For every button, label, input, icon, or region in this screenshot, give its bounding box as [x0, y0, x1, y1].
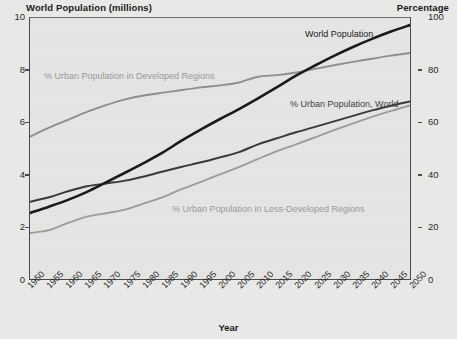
x-tick-label-1990: 1990	[179, 270, 200, 291]
series-label-urban-world: % Urban Population, World	[290, 100, 398, 109]
x-axis-title: Year	[0, 322, 457, 333]
x-axis-ticks: 1950195519601965197019751980198519901995…	[0, 0, 457, 339]
x-tick-label-2010: 2010	[255, 270, 276, 291]
series-label-urban-developed: % Urban Population in Developed Regions	[44, 72, 215, 81]
x-tick-label-2030: 2030	[332, 270, 353, 291]
x-tick-label-2000: 2000	[217, 270, 238, 291]
x-tick-label-2020: 2020	[293, 270, 314, 291]
x-tick-label-1975: 1975	[122, 270, 143, 291]
x-tick-label-1955: 1955	[45, 270, 66, 291]
x-tick-label-1985: 1985	[160, 270, 181, 291]
x-tick-label-1970: 1970	[102, 270, 123, 291]
x-tick-label-2035: 2035	[351, 270, 372, 291]
x-tick-label-2045: 2045	[389, 270, 410, 291]
x-tick-label-2040: 2040	[370, 270, 391, 291]
x-tick-label-1950: 1950	[26, 270, 47, 291]
x-tick-label-2005: 2005	[236, 270, 257, 291]
x-tick-label-2015: 2015	[274, 270, 295, 291]
x-tick-label-1965: 1965	[83, 270, 104, 291]
x-tick-label-1995: 1995	[198, 270, 219, 291]
x-tick-label-1960: 1960	[64, 270, 85, 291]
series-label-urban-less-developed: % Urban Population in Less-Developed Reg…	[172, 205, 365, 214]
x-tick-label-1980: 1980	[141, 270, 162, 291]
series-label-world-population: World Population	[305, 30, 373, 39]
x-tick-label-2050: 2050	[408, 270, 429, 291]
x-tick-label-2025: 2025	[313, 270, 334, 291]
chart-container: World Population (millions) Percentage 0…	[0, 0, 457, 339]
